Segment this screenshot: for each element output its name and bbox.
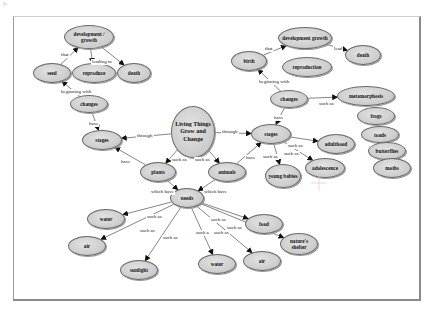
edge-label: such as xyxy=(139,228,156,234)
concept-node[interactable]: metamorphosis xyxy=(337,86,395,106)
edge-label: have xyxy=(245,155,256,161)
concept-node[interactable]: plants xyxy=(140,162,176,182)
concept-node[interactable]: adulthood xyxy=(317,134,355,154)
edge-label: such as xyxy=(262,154,279,160)
concept-node[interactable]: sunlight xyxy=(120,260,158,280)
edge-label: such a xyxy=(195,230,210,236)
edge-label: such as xyxy=(210,217,227,223)
concept-node[interactable]: death xyxy=(117,63,151,83)
edge-label: such as xyxy=(226,225,243,231)
edge-label: have xyxy=(120,159,131,165)
edge-label: such as xyxy=(283,151,300,157)
concept-node[interactable]: stages xyxy=(82,130,122,150)
concept-node[interactable]: food xyxy=(245,214,283,234)
edge-connector xyxy=(123,202,171,215)
concept-node[interactable]: seed xyxy=(33,63,71,83)
concept-node[interactable]: Living Things Grow and Change xyxy=(171,106,215,158)
concept-node[interactable]: animals xyxy=(208,162,246,182)
concept-node[interactable]: reproduction xyxy=(282,57,332,77)
concept-node[interactable]: air xyxy=(68,236,106,256)
edge-label: through xyxy=(221,129,239,135)
edge-label: beginning with xyxy=(258,79,290,85)
edge-label: have xyxy=(273,115,284,121)
concept-node[interactable]: young babies xyxy=(265,164,301,188)
concept-node[interactable]: air xyxy=(243,251,281,271)
edge-label: leading to xyxy=(91,59,113,65)
concept-node[interactable]: birth xyxy=(231,51,267,71)
concept-node[interactable]: toads xyxy=(361,126,399,143)
edge-label: that xyxy=(60,52,70,58)
concept-node[interactable]: nature's shelter xyxy=(280,233,318,255)
concept-node[interactable]: stages xyxy=(251,124,291,144)
edge-label: which have xyxy=(203,189,228,195)
concept-node[interactable]: reproduce xyxy=(72,63,116,83)
edge-label: that xyxy=(264,46,274,52)
edge-label: which have xyxy=(150,189,175,195)
concept-node[interactable]: water xyxy=(87,209,125,229)
edge-label: lead xyxy=(333,46,343,52)
edge-label: such as xyxy=(287,143,304,149)
cursor-crosshair-icon xyxy=(311,175,327,191)
concept-node[interactable]: frogs xyxy=(357,107,395,125)
concept-node[interactable]: changes xyxy=(70,95,108,113)
edge-label: such as xyxy=(146,214,163,220)
edge-label: such as xyxy=(162,235,179,241)
concept-node[interactable]: water xyxy=(198,254,236,274)
edge-label: such as xyxy=(318,101,335,107)
edge-connector xyxy=(290,137,318,141)
concept-node[interactable]: needs xyxy=(170,188,204,208)
edge-connector xyxy=(308,97,337,98)
edge-label: have xyxy=(88,121,99,127)
edge-label: beginning with xyxy=(60,89,92,95)
concept-node[interactable]: development / growth xyxy=(64,25,114,49)
concept-node[interactable]: death xyxy=(345,45,381,65)
edge-label: such as xyxy=(194,157,211,163)
concept-node[interactable]: development growth xyxy=(278,27,332,49)
edge-label: such as xyxy=(171,157,188,163)
concept-node[interactable]: moths xyxy=(373,158,411,178)
edge-label: through xyxy=(136,133,154,139)
concept-node[interactable]: changes xyxy=(270,90,308,108)
